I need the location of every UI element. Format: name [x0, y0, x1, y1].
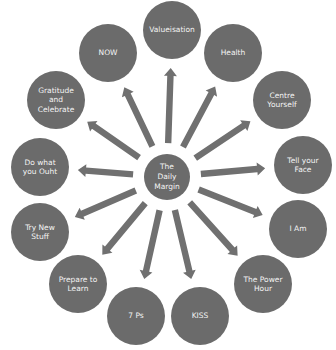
node-prepare-to-learn: Prepare to Learn	[49, 255, 107, 313]
arrow-icon	[97, 199, 150, 259]
node-label: Valueisation	[149, 25, 195, 34]
node-centre-yourself: Centre Yourself	[253, 71, 311, 129]
node-kiss: KISS	[171, 287, 229, 345]
arrow-icon	[118, 85, 158, 150]
node-i-am: I Am	[269, 200, 327, 258]
arrow-icon	[185, 198, 243, 260]
arrow-icon	[196, 184, 265, 222]
arrow-icon	[192, 116, 254, 164]
node-do-what-you-ouht: Do what you Ouht	[11, 138, 69, 196]
node-label: Centre Yourself	[267, 91, 296, 110]
node-label: NOW	[99, 48, 118, 57]
arrow-icon	[169, 209, 198, 281]
arrow-icon	[84, 116, 143, 163]
node-label: 7 Ps	[128, 311, 143, 320]
arrow-icon	[177, 83, 221, 150]
node-now: NOW	[79, 24, 137, 82]
node-try-new-stuff: Try New Stuff	[11, 203, 69, 261]
node-label: Do what you Ouht	[23, 158, 58, 177]
node-label: Health	[221, 48, 246, 57]
node-label: KISS	[192, 311, 209, 320]
arrow-icon	[77, 164, 133, 181]
node-label: Gratitude and Celebrate	[38, 86, 75, 114]
node-label: The Power Hour	[243, 275, 282, 294]
arrow-icon	[138, 209, 166, 281]
node-gratitude-and-celebrate: Gratitude and Celebrate	[27, 71, 85, 129]
node-health: Health	[204, 24, 262, 82]
node-label: Try New Stuff	[25, 223, 55, 242]
node-the-power-hour: The Power Hour	[234, 255, 292, 313]
arrow-icon	[162, 68, 178, 143]
arrow-icon	[200, 162, 265, 181]
node-valueisation: Valueisation	[143, 1, 201, 59]
node-label: Tell your Face	[287, 156, 318, 175]
center-label: The Daily Margin	[154, 162, 180, 191]
node-tell-your-face: Tell your Face	[274, 136, 332, 194]
daily-margin-diagram: ValueisationHealthCentre YourselfTell yo…	[0, 0, 336, 350]
center-node: The Daily Margin	[144, 154, 190, 200]
node-label: I Am	[289, 224, 306, 233]
arrow-icon	[72, 185, 138, 223]
node-label: Prepare to Learn	[59, 275, 98, 294]
node-7-ps: 7 Ps	[107, 287, 165, 345]
